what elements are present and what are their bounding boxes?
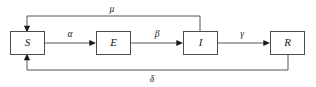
seir-diagram-canvas: μ δ α β γ S <box>0 0 316 87</box>
edge-alpha-label: α <box>68 29 74 39</box>
edge-beta: β <box>131 29 183 46</box>
node-susceptible-label: S <box>25 36 31 48</box>
seir-diagram: μ δ α β γ S <box>0 0 316 87</box>
node-exposed: E <box>97 32 131 55</box>
edge-mu-label: μ <box>109 4 115 14</box>
edge-alpha: α <box>45 29 96 46</box>
edge-gamma-label: γ <box>240 29 244 39</box>
edge-mu: μ <box>24 4 200 33</box>
node-exposed-label: E <box>109 36 117 48</box>
edge-delta-label: δ <box>150 74 155 84</box>
edge-mu-path <box>27 16 200 31</box>
edge-beta-label: β <box>154 29 160 39</box>
edge-delta-path <box>27 55 288 70</box>
node-recovered-label: R <box>283 36 291 48</box>
node-recovered: R <box>271 32 305 55</box>
node-susceptible: S <box>11 32 45 55</box>
edge-delta: δ <box>24 54 288 85</box>
edge-gamma: γ <box>218 29 270 46</box>
edge-gamma-arrowhead <box>263 40 270 46</box>
node-infected: I <box>184 32 218 55</box>
edge-alpha-arrowhead <box>89 40 96 46</box>
edge-beta-arrowhead <box>176 40 183 46</box>
